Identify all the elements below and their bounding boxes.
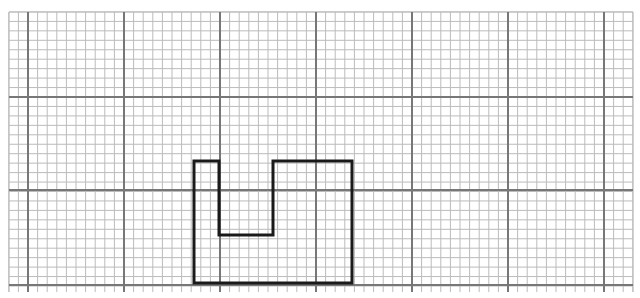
grid-diagram [0, 0, 640, 298]
minor-grid-lines [9, 12, 633, 292]
notched-shape-outline [194, 161, 352, 283]
major-grid-lines [9, 12, 633, 292]
